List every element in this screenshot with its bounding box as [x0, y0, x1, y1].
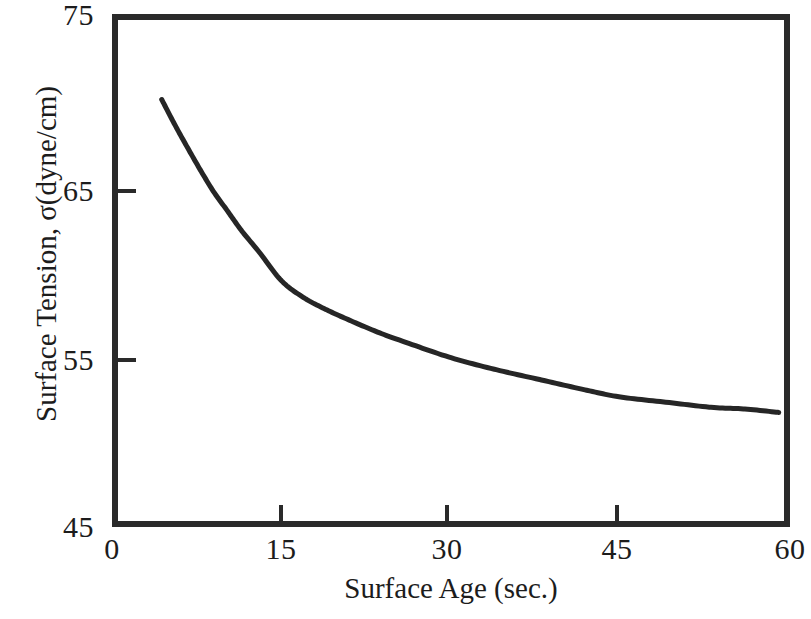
x-tick-45 [615, 505, 619, 527]
y-tick-65 [112, 189, 136, 193]
plot-frame [112, 14, 790, 527]
y-tick-55 [112, 358, 136, 362]
x-tick-label-0: 0 [72, 534, 152, 564]
surface-tension-chart: 75 65 55 45 0 15 30 45 60 Surface Tensio… [0, 0, 811, 619]
x-tick-label-45: 45 [577, 534, 657, 564]
x-tick-30 [445, 505, 449, 527]
x-axis-label: Surface Age (sec.) [112, 572, 790, 604]
x-tick-label-15: 15 [241, 534, 321, 564]
x-tick-15 [279, 505, 283, 527]
x-tick-label-30: 30 [407, 534, 487, 564]
y-axis-label: Surface Tension, σ(dyne/cm) [30, 0, 62, 514]
x-tick-label-60: 60 [750, 534, 811, 564]
